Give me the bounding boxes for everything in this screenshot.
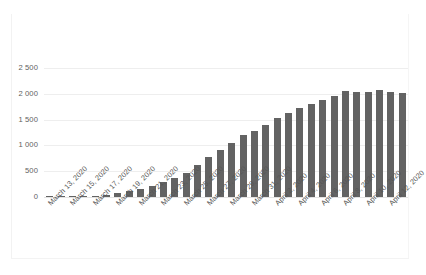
bar xyxy=(69,196,76,197)
bar xyxy=(205,157,212,197)
bar xyxy=(160,182,167,197)
bar xyxy=(228,143,235,197)
bar xyxy=(137,189,144,197)
bar xyxy=(194,165,201,197)
gridline-0 xyxy=(44,197,408,198)
y-tick-label: 2 000 xyxy=(4,89,38,98)
bar xyxy=(285,113,292,197)
bar xyxy=(319,100,326,197)
bar xyxy=(240,135,247,197)
y-tick-label: 500 xyxy=(4,166,38,175)
bar xyxy=(308,104,315,197)
bar xyxy=(171,178,178,197)
bar xyxy=(342,91,349,197)
bar xyxy=(126,191,133,197)
bar xyxy=(217,150,224,197)
bar xyxy=(376,90,383,197)
y-tick-label: 0 xyxy=(4,192,38,201)
bar xyxy=(46,196,53,197)
bar xyxy=(251,131,258,197)
y-tick-label: 2 500 xyxy=(4,63,38,72)
bar xyxy=(296,108,303,197)
bar xyxy=(387,92,394,197)
y-tick-label: 1 500 xyxy=(4,115,38,124)
bar xyxy=(399,93,406,197)
bar xyxy=(331,96,338,197)
bar xyxy=(183,173,190,197)
bar xyxy=(365,92,372,197)
bar xyxy=(149,186,156,197)
bar xyxy=(114,193,121,197)
y-tick-label: 1 000 xyxy=(4,140,38,149)
bar xyxy=(274,118,281,197)
bar xyxy=(58,196,65,197)
chart-frame-right-border xyxy=(408,14,409,259)
chart-bars xyxy=(44,68,408,197)
chart-frame-left-border xyxy=(11,14,12,259)
bar xyxy=(353,92,360,197)
bar xyxy=(80,196,87,197)
bar xyxy=(262,125,269,197)
bar xyxy=(103,195,110,197)
bar xyxy=(92,196,99,197)
chart-frame-bottom-border xyxy=(11,258,409,259)
